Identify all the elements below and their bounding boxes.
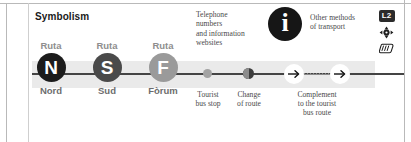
panel-left-border — [6, 3, 7, 142]
route-name-label: Nord — [28, 85, 74, 96]
route-name-label: Fòrum — [140, 85, 186, 96]
panel-top-border — [0, 3, 411, 4]
panel-right-border — [404, 0, 405, 142]
transport-icon-stack: L2 — [378, 9, 398, 57]
caption-line: Change — [226, 90, 272, 99]
other-transport-line: of transport — [310, 22, 372, 31]
change-of-route-icon[interactable] — [243, 68, 254, 79]
tourist-bus-stop-caption: Tourist bus stop — [185, 90, 231, 108]
page-title: Symbolism — [35, 11, 89, 22]
route-item-nord[interactable]: Ruta N Nord — [28, 40, 74, 96]
telephone-line: and information — [196, 29, 264, 38]
metro-line-badge[interactable]: L2 — [379, 10, 395, 22]
route-tag-label: Ruta — [84, 40, 130, 51]
arrow-right-circle-icon[interactable] — [330, 64, 350, 84]
change-dot-shape — [243, 68, 254, 79]
route-item-forum[interactable]: Ruta F Fòrum — [140, 40, 186, 96]
stop-dot-shape — [203, 69, 212, 78]
complement-caption: Complement to the tourist bus route — [275, 90, 359, 117]
tourist-bus-stop-icon[interactable] — [203, 69, 212, 78]
caption-line: of route — [226, 99, 272, 108]
arrow-right-circle-icon[interactable] — [284, 64, 304, 84]
other-transport-label: Other methods of transport — [310, 13, 372, 32]
funicular-icon[interactable] — [378, 25, 395, 39]
other-transport-line: Other methods — [310, 13, 372, 22]
change-of-route-caption: Change of route — [226, 90, 272, 108]
route-circle-s[interactable]: S — [93, 53, 122, 82]
route-circle-f[interactable]: F — [149, 53, 178, 82]
telephone-line: Telephone — [196, 10, 264, 19]
tram-icon[interactable] — [378, 41, 395, 55]
route-name-label: Sud — [84, 85, 130, 96]
symbolism-legend-panel: Symbolism Ruta N Nord Ruta S Sud Ruta F … — [0, 0, 411, 142]
metro-line-badge-wrapper[interactable]: L2 — [378, 9, 395, 23]
route-tag-label: Ruta — [140, 40, 186, 51]
caption-line: Complement — [275, 90, 359, 99]
telephone-line: websites — [196, 38, 264, 47]
caption-line: bus stop — [185, 99, 231, 108]
caption-line: Tourist — [185, 90, 231, 99]
route-tag-label: Ruta — [28, 40, 74, 51]
information-icon[interactable]: i — [268, 7, 302, 41]
caption-line: bus route — [275, 108, 359, 117]
dotted-connector — [300, 72, 332, 75]
telephone-line: numbers — [196, 19, 264, 28]
telephone-info-label: Telephone numbers and information websit… — [196, 10, 264, 48]
caption-line: to the tourist — [275, 99, 359, 108]
info-glyph: i — [281, 10, 288, 36]
route-item-sud[interactable]: Ruta S Sud — [84, 40, 130, 96]
route-circle-n[interactable]: N — [37, 53, 66, 82]
